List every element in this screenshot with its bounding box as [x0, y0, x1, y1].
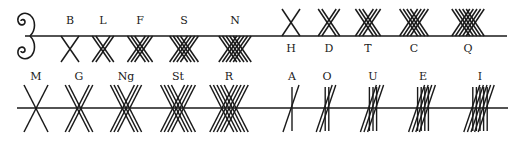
ogham-letter-b-icon — [61, 36, 79, 62]
letter-label-t: T — [364, 43, 371, 54]
stemlines — [17, 36, 508, 108]
letter-label-c: C — [410, 43, 418, 54]
letter-label-q: Q — [463, 43, 472, 54]
letter-label-r: R — [225, 71, 233, 82]
letter-label-d: D — [325, 43, 334, 54]
letter-label-h: H — [286, 43, 296, 54]
ogham-letter-l-icon — [92, 36, 114, 62]
ogham-letter-s-icon — [170, 36, 199, 62]
ogham-letter-n-icon — [219, 36, 251, 62]
ogham-letter-c-icon — [400, 9, 429, 36]
ogham-letter-d-icon — [318, 9, 340, 36]
letter-label-f: F — [136, 15, 144, 26]
ogham-alphabet-diagram: BLFSNHDTCQMGNgStRAOUEI — [0, 0, 523, 141]
ogham-letter-t-icon — [355, 9, 380, 36]
letter-label-a: A — [288, 71, 296, 82]
letter-label-n: N — [230, 15, 240, 26]
letter-label-e: E — [419, 71, 427, 82]
letter-label-s: S — [180, 15, 188, 26]
letter-label-o: O — [322, 71, 331, 82]
letter-label-g: G — [75, 71, 84, 82]
letter-label-m: M — [30, 71, 41, 82]
ogham-letter-h-icon — [282, 9, 300, 36]
letter-label-u: U — [368, 71, 377, 82]
ogham-letter-f-icon — [127, 36, 152, 62]
letter-label-i: I — [478, 71, 482, 82]
letter-label-st: St — [172, 71, 184, 82]
letter-label-l: L — [99, 15, 106, 26]
letter-label-ng: Ng — [118, 71, 135, 82]
ogham-letter-q-icon — [452, 9, 484, 36]
letter-label-b: B — [66, 15, 74, 26]
